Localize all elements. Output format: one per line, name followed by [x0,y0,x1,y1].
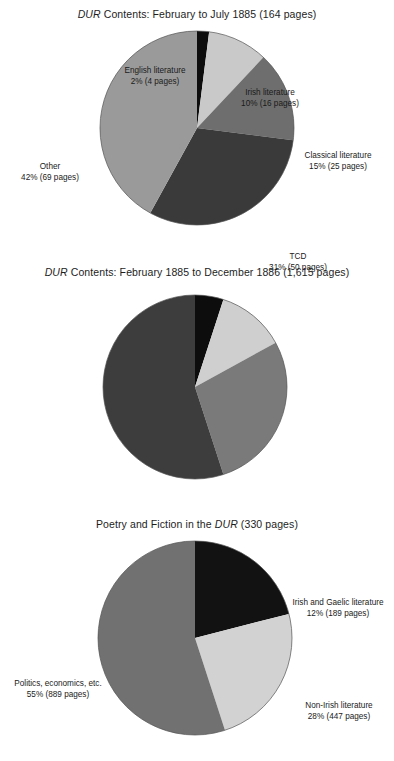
pie-wrap-2: TCD 5% (90 pages) Irish and Gaelic liter… [0,278,394,500]
chart-block-dur-contents-1885-1886: DUR Contents: February 1885 to December … [0,258,394,510]
chart-title-2-italic: DUR [45,266,68,278]
pie-label-irish-literature-1: Irish literature 10% (16 pages) [218,88,322,109]
chart-title-3-pre: Poetry and Fiction in the [96,518,215,530]
pie-label-name: Classical literature [283,151,393,162]
chart-title-2: DUR Contents: February 1885 to December … [0,258,394,278]
chart-title-3-italic: DUR [215,518,238,530]
chart-title-1-rest: Contents: February to July 1885 (164 pag… [101,8,317,20]
pie-label-name: Irish literature [218,88,322,99]
pie-wrap-1: English literature 2% (4 pages) Irish li… [0,20,394,250]
pie-label-classical-literature-1: Classical literature 15% (25 pages) [283,151,393,172]
pie-wrap-3: English poetry and fiction 21% (70 pages… [0,530,394,752]
chart-title-2-rest: Contents: February 1885 to December 1886… [68,266,350,278]
pie-chart-2 [100,292,290,482]
chart-title-3: Poetry and Fiction in the DUR (330 pages… [0,510,394,530]
chart-block-dur-contents-1885: DUR Contents: February to July 1885 (164… [0,0,394,258]
pie-label-name: English literature [103,66,207,77]
chart-block-poetry-and-fiction: Poetry and Fiction in the DUR (330 pages… [0,510,394,761]
pie-chart-1 [97,28,297,228]
pie-label-value: 10% (16 pages) [218,99,322,110]
chart-title-3-rest: (330 pages) [238,518,298,530]
pie-label-name: Other [4,162,96,173]
pie-chart-3 [95,538,295,738]
pie-label-value: 42% (69 pages) [4,173,96,184]
chart-title-1-italic: DUR [78,8,101,20]
pie-label-value: 15% (25 pages) [283,162,393,173]
pie-label-english-literature-1: English literature 2% (4 pages) [103,66,207,87]
chart-title-1: DUR Contents: February to July 1885 (164… [0,0,394,20]
pie-label-value: 2% (4 pages) [103,77,207,88]
pie-label-other-1: Other 42% (69 pages) [4,162,96,183]
